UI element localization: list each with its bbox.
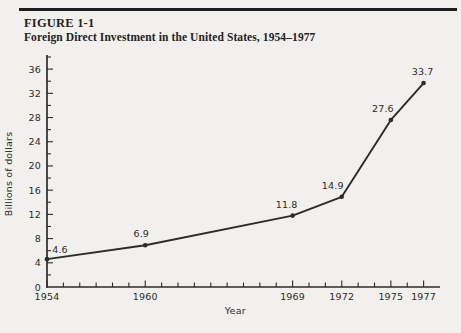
data-point-marker — [389, 118, 394, 123]
y-axis-tick-label: 20 — [29, 160, 42, 171]
data-point-marker — [421, 81, 426, 86]
x-axis-tick-label: 1969 — [280, 291, 305, 302]
chart-area: 0481216202428323619541960196919721975197… — [0, 45, 461, 333]
y-axis-title: Billions of dollars — [3, 132, 14, 217]
fdi-series-line — [47, 83, 424, 259]
data-point-marker — [143, 243, 148, 248]
fdi-line-chart: 0481216202428323619541960196919721975197… — [0, 45, 461, 333]
x-axis-tick-label: 1975 — [378, 291, 403, 302]
y-axis-tick-label: 32 — [29, 88, 42, 99]
figure-top-rule — [19, 8, 457, 11]
data-point-marker — [290, 213, 295, 218]
data-point-label: 14.9 — [322, 180, 344, 191]
figure-page: { "figure": { "label": "FIGURE 1-1", "ti… — [0, 0, 461, 333]
data-point-marker — [45, 257, 50, 262]
x-axis-tick-label: 1954 — [35, 291, 60, 302]
data-point-label: 6.9 — [133, 228, 149, 239]
x-axis-tick-label: 1960 — [133, 291, 158, 302]
y-axis-tick-label: 28 — [29, 112, 42, 123]
data-point-marker — [339, 195, 344, 200]
y-axis-tick-label: 24 — [29, 136, 42, 147]
figure-title: Foreign Direct Investment in the United … — [24, 31, 315, 43]
y-axis-tick-label: 36 — [29, 64, 42, 75]
data-point-label: 4.6 — [52, 244, 68, 255]
y-axis-tick-label: 16 — [29, 185, 42, 196]
figure-label: FIGURE 1-1 — [24, 16, 94, 31]
x-axis-tick-label: 1972 — [329, 291, 354, 302]
x-axis-tick-label: 1977 — [411, 291, 436, 302]
data-point-label: 27.6 — [372, 103, 394, 114]
data-point-label: 33.7 — [412, 66, 434, 77]
y-axis-tick-label: 12 — [29, 209, 42, 220]
y-axis-tick-label: 8 — [35, 233, 41, 244]
data-point-label: 11.8 — [276, 199, 298, 210]
y-axis-tick-label: 4 — [35, 257, 41, 268]
x-axis-title: Year — [224, 305, 246, 316]
